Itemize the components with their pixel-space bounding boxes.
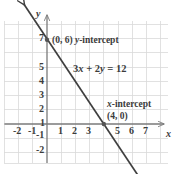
y-tick-5: 5 [39, 62, 44, 72]
y-tick-3: 3 [39, 90, 44, 100]
x-intercept-suffix: -intercept [112, 99, 151, 109]
x-tick-1: 1 [58, 126, 63, 136]
x-tick-3: 3 [86, 126, 91, 136]
x-intercept-annotation-line1: x-intercept [107, 100, 151, 110]
y-tick-4: 4 [39, 76, 44, 86]
y-intercept-coords: (0, 6) [52, 35, 73, 45]
x-tick-7: 7 [143, 126, 148, 136]
x-tick-neg2: -2 [13, 126, 21, 136]
y-axis-label: y [36, 9, 40, 19]
equation-annotation: 3x + 2y = 12 [73, 64, 126, 75]
y-tick-neg2: -2 [36, 145, 44, 155]
line-graph-figure: y x 7 5 4 3 2 1 -1 -2 -2 -1 1 2 3 5 6 7 … [0, 0, 179, 174]
x-tick-2: 2 [72, 126, 77, 136]
x-intercept-annotation-line2: (4, 0) [107, 112, 128, 122]
coordinate-plane-svg [0, 0, 179, 174]
x-tick-6: 6 [129, 126, 134, 136]
y-tick-1: 1 [40, 118, 45, 128]
y-intercept-annotation: (0, 6) y-intercept [52, 36, 119, 46]
y-tick-2: 2 [39, 104, 44, 114]
x-tick-neg1: -1 [28, 126, 36, 136]
equation-operator-plus: + [84, 63, 95, 74]
y-intercept-suffix: -intercept [79, 35, 118, 45]
y-tick-neg1: -1 [36, 130, 44, 140]
y-tick-7: 7 [39, 33, 44, 43]
x-intercept-point [102, 122, 106, 126]
y-intercept-point [45, 38, 49, 42]
x-axis-label: x [166, 129, 171, 139]
x-tick-5: 5 [115, 126, 120, 136]
equation-equals-rhs: = 12 [105, 63, 127, 74]
